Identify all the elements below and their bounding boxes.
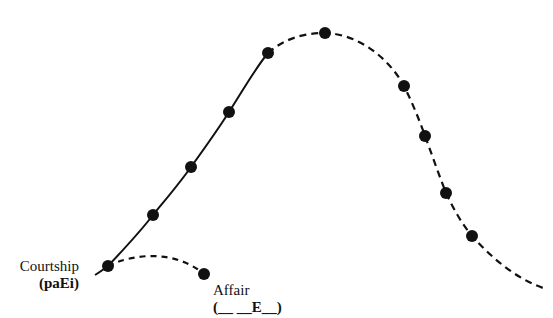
label-courtship-code: (paEi) (20, 275, 79, 292)
point-decline-4 (466, 230, 478, 242)
point-rise-4 (262, 47, 274, 59)
label-courtship: Courtship (paEi) (20, 258, 79, 292)
point-rise-3 (223, 106, 235, 118)
label-affair-code: (__ __E__) (213, 299, 282, 316)
curve-affair-branch-dashed (108, 256, 204, 274)
point-peak (319, 27, 331, 39)
point-rise-1 (147, 209, 159, 221)
label-affair-title: Affair (213, 282, 249, 298)
relationship-trajectory-diagram: Courtship (paEi) Affair (__ __E__) (0, 0, 553, 318)
data-points (102, 27, 478, 280)
diagram-canvas (0, 0, 553, 318)
point-affair (198, 268, 210, 280)
point-courtship (102, 260, 114, 272)
curve-decline-dashed (268, 33, 543, 288)
label-courtship-title: Courtship (20, 258, 79, 274)
point-decline-2 (419, 130, 431, 142)
point-rise-2 (185, 161, 197, 173)
curve-courtship-rising-solid (95, 53, 268, 275)
point-decline-1 (398, 80, 410, 92)
label-affair: Affair (__ __E__) (213, 282, 282, 316)
point-decline-3 (440, 187, 452, 199)
